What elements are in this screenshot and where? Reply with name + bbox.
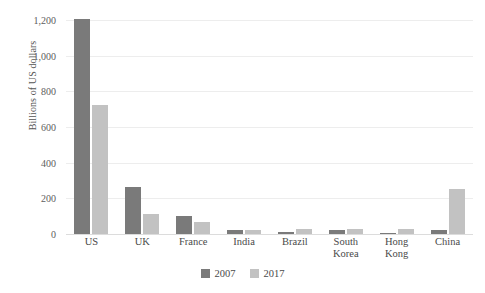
x-tick-label-line: South [320, 236, 371, 248]
y-tick-label: 1,200 [34, 15, 57, 26]
y-tick-label: 0 [51, 229, 56, 240]
x-tick-label-line: Korea [320, 248, 371, 260]
bar[interactable] [143, 214, 159, 235]
bar[interactable] [278, 232, 294, 234]
legend-swatch-icon [250, 269, 259, 278]
bar[interactable] [449, 189, 465, 234]
x-tick-label: HongKong [371, 236, 422, 259]
legend-item[interactable]: 2017 [250, 268, 285, 279]
x-tick-label-line: UK [117, 236, 168, 248]
bar-chart: Billions of US dollars 02004006008001,00… [0, 0, 485, 293]
x-axis-tick-labels: USUKFranceIndiaBrazilSouthKoreaHongKongC… [66, 236, 473, 259]
y-tick-label: 1,000 [34, 50, 57, 61]
bar-group [422, 20, 473, 234]
bar[interactable] [380, 233, 396, 235]
bar[interactable] [296, 229, 312, 234]
legend-label: 2017 [264, 268, 285, 279]
bar-groups [66, 20, 473, 234]
x-tick-label: UK [117, 236, 168, 259]
x-tick-label: China [422, 236, 473, 259]
legend-swatch-icon [201, 269, 210, 278]
bar-group [219, 20, 270, 234]
y-axis-tick-labels: 02004006008001,0001,200 [0, 20, 60, 234]
bar-group [270, 20, 321, 234]
bar[interactable] [347, 229, 363, 234]
axis-baseline [66, 234, 473, 235]
x-tick-label: India [219, 236, 270, 259]
legend: 20072017 [0, 268, 485, 279]
bar-group [117, 20, 168, 234]
bar[interactable] [74, 19, 90, 234]
x-tick-label-line: Hong [371, 236, 422, 248]
x-tick-label-line: China [422, 236, 473, 248]
legend-item[interactable]: 2007 [201, 268, 236, 279]
bar-group [320, 20, 371, 234]
y-tick-label: 200 [41, 193, 56, 204]
bar-group [66, 20, 117, 234]
bar[interactable] [431, 230, 447, 234]
x-tick-label: SouthKorea [320, 236, 371, 259]
bar[interactable] [227, 230, 243, 234]
x-tick-label-line: France [168, 236, 219, 248]
legend-label: 2007 [215, 268, 236, 279]
x-tick-label-line: US [66, 236, 117, 248]
x-tick-label: US [66, 236, 117, 259]
bar[interactable] [329, 230, 345, 234]
x-tick-label: France [168, 236, 219, 259]
bar-group [168, 20, 219, 234]
x-tick-label-line: Kong [371, 248, 422, 260]
x-tick-label-line: India [219, 236, 270, 248]
bar[interactable] [245, 230, 261, 234]
bar-group [371, 20, 422, 234]
y-tick-label: 800 [41, 86, 56, 97]
bar[interactable] [194, 222, 210, 234]
x-tick-label-line: Brazil [270, 236, 321, 248]
y-tick-label: 400 [41, 157, 56, 168]
bar[interactable] [176, 216, 192, 234]
bar[interactable] [92, 105, 108, 234]
bar[interactable] [125, 187, 141, 234]
y-tick-label: 600 [41, 122, 56, 133]
plot-area [66, 20, 473, 234]
x-tick-label: Brazil [270, 236, 321, 259]
bar[interactable] [398, 229, 414, 234]
